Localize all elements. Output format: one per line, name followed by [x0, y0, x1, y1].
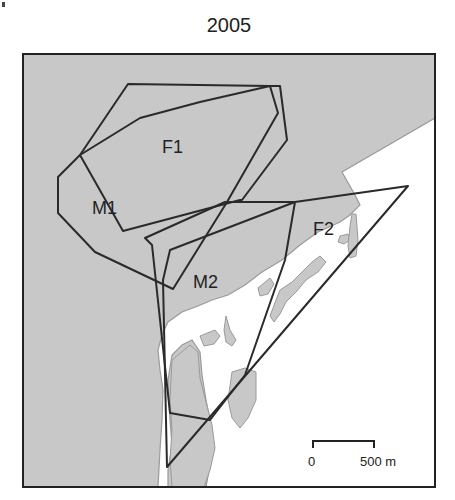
label-M2: M2	[193, 272, 218, 292]
map-body: F1 M1 M2 F2 0 500 m	[20, 54, 435, 487]
map-canvas: F1 M1 M2 F2 0 500 m	[0, 0, 455, 500]
label-M1: M1	[92, 198, 117, 218]
label-F2: F2	[313, 219, 334, 239]
scale-end-label: 500 m	[360, 454, 396, 469]
label-F1: F1	[162, 137, 183, 157]
scale-start-label: 0	[308, 454, 315, 469]
